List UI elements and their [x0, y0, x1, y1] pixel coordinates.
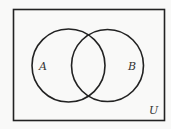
- venn-diagram: A B U: [0, 0, 171, 129]
- universe-label: U: [149, 104, 159, 117]
- set-b-label: B: [127, 60, 136, 73]
- set-a-label: A: [38, 60, 47, 73]
- universe-rectangle: [14, 10, 165, 121]
